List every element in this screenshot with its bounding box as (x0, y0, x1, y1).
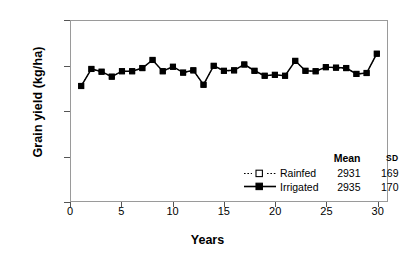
legend-sd-rainfed: 169 (373, 167, 399, 181)
x-tick-mark (224, 202, 225, 207)
data-point (252, 68, 257, 73)
data-point (344, 65, 349, 70)
data-point (354, 71, 359, 76)
data-point (364, 70, 369, 75)
x-tick-mark (275, 202, 276, 207)
data-point (232, 68, 237, 73)
x-tick-mark (326, 202, 327, 207)
chart-figure: Grain yield (kg/ha) Years 01000200030004… (0, 0, 415, 259)
data-point (293, 58, 298, 63)
legend-header-name (280, 152, 327, 167)
legend-label-irrigated: Irrigated (280, 181, 327, 195)
y-axis-title: Grain yield (kg/ha) (31, 12, 45, 192)
data-point (221, 68, 226, 73)
data-point (333, 65, 338, 70)
x-tick-mark (378, 202, 379, 207)
data-point (282, 73, 287, 78)
series-line (81, 54, 377, 86)
legend-row-irrigated: Irrigated 2935 170 (243, 181, 399, 195)
dotted-open-square-icon (243, 169, 277, 178)
x-axis-title: Years (0, 233, 415, 247)
data-point (262, 73, 267, 78)
data-point (191, 68, 196, 73)
data-point (160, 69, 165, 74)
data-point (79, 83, 84, 88)
x-tick-label: 20 (255, 206, 295, 217)
x-tick-label: 0 (50, 206, 90, 217)
data-point (140, 65, 145, 70)
x-tick-label: 25 (306, 206, 346, 217)
x-tick-label: 10 (153, 206, 193, 217)
x-tick-mark (70, 202, 71, 207)
x-tick-mark (173, 202, 174, 207)
x-tick-label: 15 (204, 206, 244, 217)
chart-legend: Mean SD Rainfed 2931 169 (243, 152, 399, 194)
legend-header-sd: SD (373, 152, 399, 167)
data-point (109, 74, 114, 79)
legend-header-spacer (243, 152, 280, 167)
legend-mean-rainfed: 2931 (327, 167, 373, 181)
data-point (150, 57, 155, 62)
series-irrigated (79, 51, 380, 89)
x-tick-label: 5 (101, 206, 141, 217)
data-point (99, 69, 104, 74)
data-point (242, 62, 247, 67)
legend-row-rainfed: Rainfed 2931 169 (243, 167, 399, 181)
x-tick-label: 30 (358, 206, 398, 217)
data-point (201, 82, 206, 87)
data-point (211, 63, 216, 68)
data-point (181, 70, 186, 75)
legend-mean-irrigated: 2935 (327, 181, 373, 195)
legend-symbol-rainfed (243, 167, 280, 181)
legend-header-row: Mean SD (243, 152, 399, 167)
data-point (130, 69, 135, 74)
legend-sd-irrigated: 170 (373, 181, 399, 195)
data-point (323, 65, 328, 70)
solid-filled-square-icon (243, 182, 277, 191)
data-point (313, 69, 318, 74)
legend-symbol-irrigated (243, 181, 280, 195)
data-point (170, 64, 175, 69)
legend-label-rainfed: Rainfed (280, 167, 327, 181)
data-point (374, 51, 379, 56)
data-point (89, 66, 94, 71)
legend-header-mean: Mean (327, 152, 373, 167)
data-point (119, 69, 124, 74)
x-tick-mark (121, 202, 122, 207)
data-point (272, 72, 277, 77)
data-point (303, 68, 308, 73)
